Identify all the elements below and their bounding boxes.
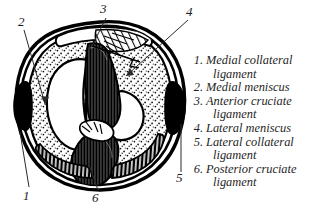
legend-label-1: Medial collateralligament bbox=[206, 54, 314, 81]
legend-item-6: 6. Posterior cruciateligament bbox=[193, 163, 314, 190]
legend-item-2: 2. Medial meniscus bbox=[193, 81, 314, 95]
legend-number-5: 5. bbox=[193, 136, 206, 150]
legend-item-5: 5. Lateral collateralligament bbox=[193, 136, 314, 163]
legend-label-3: Anterior cruciateligament bbox=[206, 95, 314, 122]
callout-number-4: 4 bbox=[186, 5, 193, 18]
diagram-page: 1 2 3 4 5 6 1. Medial collateralligament… bbox=[0, 0, 314, 208]
callout-number-2: 2 bbox=[18, 15, 25, 28]
legend-number-2: 2. bbox=[193, 81, 206, 95]
legend-number-6: 6. bbox=[193, 163, 206, 177]
legend-number-3: 3. bbox=[193, 95, 206, 109]
medial-collateral-ligament bbox=[14, 82, 32, 131]
legend-item-4: 4. Lateral meniscus bbox=[193, 122, 314, 136]
callout-number-3: 3 bbox=[100, 2, 107, 15]
legend-number-1: 1. bbox=[193, 54, 206, 68]
callout-number-6: 6 bbox=[92, 191, 99, 204]
legend-label-6: Posterior cruciateligament bbox=[206, 163, 314, 190]
callout-number-5: 5 bbox=[176, 171, 183, 184]
callout-number-1: 1 bbox=[23, 189, 30, 202]
legend: 1. Medial collateralligament 2. Medial m… bbox=[193, 54, 314, 190]
knee-anatomy-illustration bbox=[0, 0, 200, 208]
legend-label-2: Medial meniscus bbox=[206, 81, 314, 95]
legend-label-5: Lateral collateralligament bbox=[206, 136, 314, 163]
legend-label-4: Lateral meniscus bbox=[206, 122, 314, 136]
legend-item-1: 1. Medial collateralligament bbox=[193, 54, 314, 81]
legend-item-3: 3. Anterior cruciateligament bbox=[193, 95, 314, 122]
legend-number-4: 4. bbox=[193, 122, 206, 136]
